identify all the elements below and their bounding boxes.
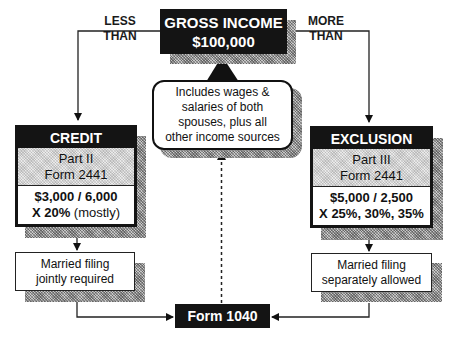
separate-to-form1040-arrow — [272, 303, 369, 317]
callout-line-4: other income sources — [165, 130, 280, 145]
less-than-arrow — [78, 31, 160, 120]
callout-line-2: salaries of both — [182, 100, 263, 115]
credit-amount-section: $3,000 / 6,000 X 20% (mostly) — [18, 186, 134, 224]
form-1040-label: Form 1040 — [187, 308, 257, 324]
separate-note-line-2: separately allowed — [322, 273, 421, 288]
credit-form-section: Part II Form 2441 — [18, 148, 134, 186]
exclusion-amounts: $5,000 / 2,500 — [330, 190, 413, 206]
credit-header-text: CREDIT — [50, 130, 102, 146]
gross-income-title: GROSS INCOME — [164, 13, 282, 32]
gross-income-amount: $100,000 — [192, 32, 255, 51]
credit-rate-line: X 20% (mostly) — [32, 205, 120, 221]
joint-note-line-2: jointly required — [36, 272, 114, 287]
joint-to-form1040-arrow — [77, 302, 173, 317]
exclusion-form-section: Part III Form 2441 — [313, 149, 430, 187]
more-text: MORE — [302, 14, 350, 29]
exclusion-part: Part III — [352, 152, 390, 168]
married-jointly-box: Married filing jointly required — [15, 252, 135, 291]
credit-form: Form 2441 — [45, 167, 108, 183]
form-1040-box: Form 1040 — [175, 304, 270, 328]
credit-box: CREDIT Part II Form 2441 $3,000 / 6,000 … — [15, 125, 137, 227]
more-than-label: MORE THAN — [302, 14, 350, 44]
separate-note-line-1: Married filing — [337, 258, 406, 273]
credit-rate: X 20% — [32, 205, 70, 220]
than-text-left: THAN — [98, 29, 142, 44]
married-separately-box: Married filing separately allowed — [311, 253, 432, 292]
joint-note-line-1: Married filing — [41, 257, 110, 272]
credit-header: CREDIT — [18, 128, 134, 148]
exclusion-header-text: EXCLUSION — [331, 131, 413, 147]
gross-income-box: GROSS INCOME $100,000 — [160, 9, 287, 54]
callout-line-1: Includes wages & — [175, 85, 269, 100]
exclusion-box: EXCLUSION Part III Form 2441 $5,000 / 2,… — [310, 126, 433, 228]
credit-amounts: $3,000 / 6,000 — [34, 189, 117, 205]
credit-part: Part II — [59, 151, 94, 167]
callout-line-3: spouses, plus all — [178, 115, 267, 130]
less-text: LESS — [98, 14, 142, 29]
than-text-right: THAN — [302, 29, 350, 44]
exclusion-header: EXCLUSION — [313, 129, 430, 149]
exclusion-rate: X 25%, 30%, 35% — [319, 206, 424, 222]
credit-rate-note: (mostly) — [74, 205, 120, 220]
income-callout: Includes wages & salaries of both spouse… — [152, 80, 293, 150]
exclusion-amount-section: $5,000 / 2,500 X 25%, 30%, 35% — [313, 187, 430, 225]
exclusion-form: Form 2441 — [340, 168, 403, 184]
less-than-label: LESS THAN — [98, 14, 142, 44]
